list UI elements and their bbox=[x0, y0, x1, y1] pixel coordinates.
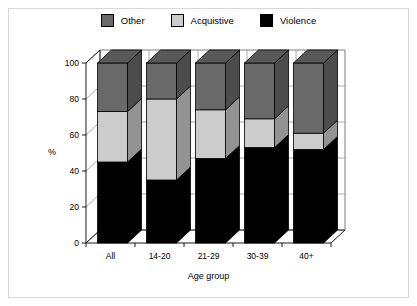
x-tick-label: All bbox=[106, 251, 116, 261]
y-tick-label: 0 bbox=[74, 238, 79, 248]
y-tick-label: 40 bbox=[70, 166, 80, 176]
bar-segment bbox=[196, 145, 240, 243]
y-tick-label: 80 bbox=[70, 94, 80, 104]
x-axis-title: Age group bbox=[188, 271, 230, 281]
x-tick-label: 30-39 bbox=[247, 251, 269, 261]
y-axis-title: % bbox=[48, 147, 56, 157]
bar-segment bbox=[196, 50, 240, 110]
x-tick-label: 40+ bbox=[299, 251, 313, 261]
y-tick-label: 100 bbox=[65, 58, 79, 68]
bar-segment bbox=[294, 50, 338, 133]
bar-segment bbox=[294, 136, 338, 243]
bar-segment bbox=[147, 50, 191, 99]
plot-area: 020406080100%All14-2021-2930-3940+Age gr… bbox=[0, 0, 417, 306]
bar-segment bbox=[98, 50, 142, 112]
bar-segment bbox=[245, 135, 289, 243]
chart-figure: Other Acquistive Violence 020406080100%A… bbox=[0, 0, 417, 306]
y-tick-label: 20 bbox=[70, 202, 80, 212]
x-tick-label: 21-29 bbox=[198, 251, 220, 261]
bar-segment bbox=[245, 50, 289, 119]
y-tick-label: 60 bbox=[70, 130, 80, 140]
chart-svg: 020406080100%All14-2021-2930-3940+Age gr… bbox=[0, 0, 417, 306]
bars bbox=[98, 50, 338, 243]
x-tick-label: 14-20 bbox=[149, 251, 171, 261]
bar-segment bbox=[98, 149, 142, 243]
bar-segment bbox=[147, 86, 191, 180]
